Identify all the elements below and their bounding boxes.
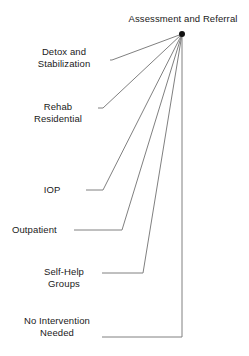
branch-label-iop: IOP xyxy=(18,184,86,196)
branch-label-line-1: IOP xyxy=(18,184,86,196)
branch-label-line-1: Self-Help xyxy=(26,266,102,278)
branch-label-line-1: No Intervention xyxy=(12,315,102,327)
hub-node-title: Assessment and Referral xyxy=(120,13,246,25)
branch-label-line-1: Outpatient xyxy=(12,224,74,236)
branch-label-line-2: Stabilization xyxy=(18,58,110,70)
branch-label-line-1: Detox and xyxy=(18,46,110,58)
branch-label-line-2: Groups xyxy=(26,278,102,290)
connector-no-intervention-needed xyxy=(102,34,182,337)
branch-label-rehab-residential: RehabResidential xyxy=(18,101,98,125)
diagram-canvas: Assessment and Referral Detox andStabili… xyxy=(0,0,249,356)
branch-label-outpatient: Outpatient xyxy=(12,224,74,236)
connector-self-help-groups xyxy=(102,34,182,273)
branch-label-line-2: Residential xyxy=(18,113,98,125)
branch-label-no-intervention-needed: No InterventionNeeded xyxy=(12,315,102,339)
branch-label-self-help-groups: Self-HelpGroups xyxy=(26,266,102,290)
connector-rehab-residential xyxy=(98,34,182,108)
branch-label-line-1: Rehab xyxy=(18,101,98,113)
hub-dot-icon xyxy=(179,31,185,37)
branch-label-detox-and-stabilization: Detox andStabilization xyxy=(18,46,110,70)
branch-label-line-2: Needed xyxy=(12,327,102,339)
